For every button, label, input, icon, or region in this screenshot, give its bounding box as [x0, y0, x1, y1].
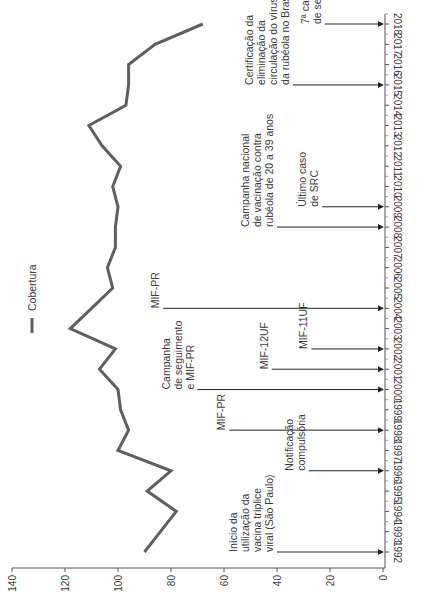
annotation-2002: MIF-11UF — [297, 302, 384, 351]
annotation-1992: Início dautilização davacina tríplicevir… — [227, 474, 384, 555]
year-axis-tick-label: 2005 — [392, 277, 403, 300]
value-axis-tick-label: 40 — [272, 575, 283, 587]
year-axis-tick-label: 1999 — [392, 399, 403, 422]
annotation-label: eliminação da — [255, 20, 267, 85]
year-axis-tick-label: 1993 — [392, 521, 403, 544]
annotation-label: MIF-PR — [149, 272, 161, 309]
arrowhead-icon — [378, 204, 384, 210]
year-axis-tick-label: 2001 — [392, 358, 403, 381]
legend-label: Cobertura — [26, 264, 38, 311]
year-axis-tick-label: 2014 — [392, 94, 403, 117]
year-axis-tick-label: 2011 — [392, 155, 403, 177]
annotation-label: MIF-12UF — [258, 322, 270, 369]
arrowhead-icon — [378, 468, 384, 474]
year-axis-tick-label: 2012 — [392, 135, 403, 158]
value-axis-tick-label: 20 — [325, 575, 336, 587]
annotation-label: Campanha nacional — [239, 134, 251, 227]
value-axis-tick-label: 0 — [378, 575, 389, 581]
arrowhead-icon — [378, 366, 384, 372]
annotation-label: de seguimento — [172, 320, 184, 389]
year-axis-tick-label: 2004 — [392, 297, 403, 320]
annotation-label: MIF-PR — [215, 394, 227, 431]
annotation-2000: Campanhade seguimentoe MIF-PR — [160, 320, 385, 392]
legend: Cobertura — [26, 264, 38, 333]
arrowhead-icon — [378, 549, 384, 555]
annotation-label: 7ª campanha — [299, 0, 311, 24]
annotation-label: circulação do vírus — [267, 0, 279, 85]
arrowhead-icon — [378, 82, 384, 88]
annotation-label: Último caso — [296, 152, 308, 207]
annotation-label: de seguimento — [311, 0, 323, 24]
year-axis-tick-label: 1995 — [392, 480, 403, 503]
year-axis-tick-label: 1992 — [392, 541, 403, 564]
arrowhead-icon — [378, 387, 384, 393]
arrowhead-icon — [378, 346, 384, 352]
year-axis-tick-label: 2008 — [392, 216, 403, 239]
arrowhead-icon — [378, 305, 384, 311]
annotation-label: da rubéola no Brasil — [279, 0, 291, 85]
annotation-label: Campanha — [160, 338, 172, 390]
annotation-1996: Notificaçãocompulsória — [283, 414, 384, 474]
year-axis-tick-label: 2017 — [392, 33, 403, 56]
year-axis-tick-label: 2013 — [392, 114, 403, 137]
annotation-2009: Último casode SRC — [296, 152, 384, 210]
annotation-label: de SRC — [308, 170, 320, 207]
value-axis-tick-label: 140 — [7, 575, 18, 592]
annotation-label: rubéola de 20 a 39 anos — [263, 114, 275, 227]
year-axis-tick-label: 2016 — [392, 53, 403, 76]
annotation-label: MIF-11UF — [297, 302, 309, 348]
year-axis-tick-label: 2018 — [392, 13, 403, 36]
coverage-series-line — [70, 24, 203, 552]
annotation-label: Início da — [227, 512, 239, 552]
annotation-label: utilização da — [239, 493, 251, 552]
year-axis-tick-label: 1996 — [392, 460, 403, 483]
value-axis-tick-label: 100 — [113, 575, 124, 592]
year-axis-tick-label: 2010 — [392, 175, 403, 198]
year-axis-tick-label: 2007 — [392, 236, 403, 259]
year-axis-tick-label: 1997 — [392, 439, 403, 462]
annotation-label: Notificação — [283, 419, 295, 471]
year-axis-tick-label: 2015 — [392, 74, 403, 97]
year-axis-tick-label: 2009 — [392, 196, 403, 219]
year-axis-tick-label: 2006 — [392, 257, 403, 280]
coverage-line-chart: 0204060801001201401992199319941995199619… — [0, 0, 433, 607]
year-axis-tick-label: 1998 — [392, 419, 403, 442]
arrowhead-icon — [378, 21, 384, 27]
year-axis-tick-label: 2002 — [392, 338, 403, 361]
annotation-label: de vacinação contra — [251, 133, 263, 227]
annotation-2018: 7ª campanhade seguimento — [299, 0, 384, 27]
annotation-2001: MIF-12UF — [258, 322, 384, 372]
annotation-label: viral (São Paulo) — [263, 474, 275, 552]
year-axis-tick-label: 2000 — [392, 378, 403, 401]
annotation-label: vacina tríplice — [251, 488, 263, 552]
annotation-label: Certificação da — [243, 15, 255, 85]
value-axis-tick-label: 60 — [219, 575, 230, 587]
chart-figure: 0204060801001201401992199319941995199619… — [0, 0, 433, 607]
value-axis-tick-label: 80 — [166, 575, 177, 587]
arrowhead-icon — [378, 427, 384, 433]
arrowhead-icon — [378, 224, 384, 230]
value-axis-tick-label: 120 — [60, 575, 71, 592]
annotation-label: e MIF-PR — [184, 344, 196, 389]
annotation-2004: MIF-PR — [149, 272, 384, 312]
annotation-label: compulsória — [295, 414, 307, 471]
year-axis-tick-label: 1994 — [392, 500, 403, 523]
year-axis-tick-label: 2003 — [392, 317, 403, 340]
